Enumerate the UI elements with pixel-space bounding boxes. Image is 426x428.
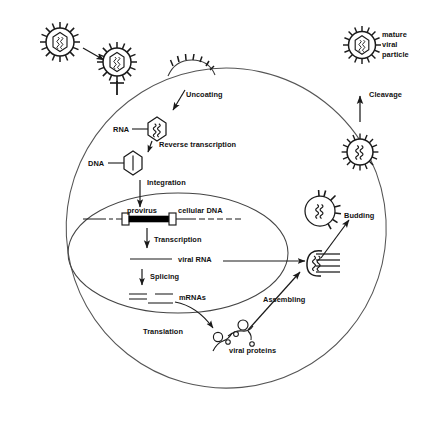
label-mature-line-1: mature bbox=[382, 30, 424, 40]
label-mature-line-2: viral bbox=[382, 40, 424, 50]
translation-arrow bbox=[175, 302, 213, 328]
label-mature-line-3: particle bbox=[382, 50, 424, 60]
attached-virion bbox=[97, 42, 137, 95]
label-reverse-transcription: Reverse transcription bbox=[159, 140, 236, 150]
uncoating-arrow bbox=[173, 90, 185, 110]
label-assembling: Assembling bbox=[263, 295, 305, 305]
reverse-transcription-arrow bbox=[148, 141, 152, 152]
dna-capsid bbox=[108, 151, 142, 175]
label-budding: Budding bbox=[344, 211, 374, 221]
ltr-box-right bbox=[169, 213, 176, 225]
attachment-arrow bbox=[83, 48, 104, 60]
free-virion bbox=[40, 22, 80, 62]
label-splicing: Splicing bbox=[150, 272, 179, 282]
label-mrnas: mRNAs bbox=[179, 293, 206, 303]
immature-virion bbox=[342, 134, 379, 171]
label-provirus: provirus bbox=[127, 206, 157, 216]
label-cleavage: Cleavage bbox=[369, 90, 402, 100]
label-viral-proteins: viral proteins bbox=[229, 346, 276, 356]
budding-virion bbox=[305, 190, 341, 229]
label-rna: RNA bbox=[113, 125, 129, 135]
label-cellular-dna: cellular DNA bbox=[178, 206, 223, 216]
provirus-bar bbox=[129, 216, 169, 222]
label-translation: Translation bbox=[143, 327, 183, 337]
rna-capsid bbox=[132, 117, 166, 141]
spliced-mrnas bbox=[129, 294, 173, 303]
retrovirus-replication-diagram: mature viral particle Cleavage Budding U… bbox=[0, 0, 426, 428]
label-transcription: Transcription bbox=[154, 235, 201, 245]
label-dna: DNA bbox=[88, 159, 104, 169]
entry-pore bbox=[168, 54, 215, 76]
label-viral-rna: viral RNA bbox=[178, 255, 212, 265]
label-integration: Integration bbox=[147, 178, 186, 188]
label-mature-viral-particle: mature viral particle bbox=[382, 30, 424, 59]
mature-viral-particle bbox=[343, 26, 381, 64]
label-uncoating: Uncoating bbox=[186, 90, 223, 100]
